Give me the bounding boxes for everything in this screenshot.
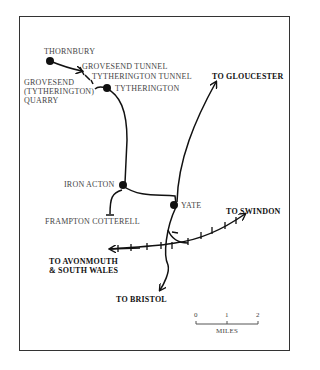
label-grovesend-tunnel: GROVESEND TUNNEL — [82, 62, 168, 71]
label-to-avonmouth: TO AVONMOUTH & SOUTH WALES — [49, 257, 118, 275]
scale-bar — [196, 321, 258, 324]
label-tytherington: TYTHERINGTON — [115, 84, 179, 93]
label-to-gloucester: TO GLOUCESTER — [212, 72, 284, 81]
main-line-west — [110, 248, 140, 249]
station-yate — [170, 201, 178, 209]
scale-tick-0: 0 — [194, 311, 198, 320]
station-tytherington — [103, 84, 111, 92]
scale-tick-1: 1 — [225, 311, 229, 320]
label-to-bristol: TO BRISTOL — [116, 295, 167, 304]
label-yate: YATE — [181, 201, 201, 210]
label-grovesend-quarry: GROVESEND (TYTHERINGTON) QUARRY — [24, 78, 94, 105]
label-tytherington-tunnel: TYTHERINGTON TUNNEL — [92, 72, 192, 81]
gloucester-line — [177, 82, 216, 202]
label-iron-acton: IRON ACTON — [64, 180, 115, 189]
thornbury-line — [50, 61, 82, 71]
bristol-line — [160, 207, 176, 290]
tytherington-line — [106, 88, 127, 183]
station-thornbury — [46, 57, 54, 65]
station-iron-acton — [119, 181, 127, 189]
scale-unit: MILES — [216, 327, 238, 336]
label-thornbury: THORNBURY — [44, 47, 95, 56]
label-to-swindon: TO SWINDON — [226, 207, 281, 216]
frampton-cotterell-branch — [110, 190, 122, 214]
label-frampton-cotterell: FRAMPTON COTTERELL — [45, 217, 140, 226]
scale-tick-2: 2 — [256, 311, 260, 320]
iron-acton-yate-line — [123, 186, 176, 204]
